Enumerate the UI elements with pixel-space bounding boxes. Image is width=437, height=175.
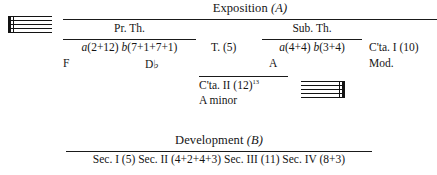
staff-line	[8, 16, 52, 17]
staff-line	[8, 24, 52, 25]
music-staff-icon	[8, 16, 52, 33]
subordinate-theme-label: Sub. Th.	[262, 22, 362, 34]
primary-theme-label: Pr. Th.	[63, 22, 196, 34]
staff-line	[8, 32, 52, 33]
closing-two-rule	[199, 76, 288, 77]
development-sections: Sec. I (5) Sec. II (4+2+4+3) Sec. III (1…	[66, 153, 372, 165]
staff-line	[8, 28, 52, 29]
closing-two-footnote: 13	[253, 78, 260, 85]
subordinate-theme-key: A	[269, 57, 277, 69]
closing-two-text: C'ta. II (12)	[199, 79, 253, 91]
closing-two-key: A minor	[199, 94, 237, 106]
staff-line	[301, 97, 345, 98]
exposition-title: Exposition (A)	[63, 1, 437, 16]
staff-line	[301, 81, 345, 82]
primary-theme-key-left: F	[63, 57, 69, 69]
development-title-letter: (B)	[247, 133, 263, 147]
primary-theme-subdivisions: a(2+12) b(7+1+7+1)	[63, 41, 196, 53]
subordinate-theme-subdivisions: a(4+4) b(3+4)	[262, 41, 362, 53]
closing-one-label: C'ta. I (10)	[369, 41, 419, 53]
exposition-title-letter: (A)	[271, 1, 287, 15]
primary-theme-key-right: D♭	[145, 57, 159, 71]
transition-label: T. (5)	[211, 41, 236, 53]
sonata-form-diagram: Exposition (A) Pr. Th. a(2+12) b(7+1+7+1…	[0, 0, 437, 175]
closing-one-key: Mod.	[369, 57, 394, 69]
development-title-text: Development	[175, 133, 243, 147]
exposition-title-text: Exposition	[213, 1, 268, 15]
development-title: Development (B)	[66, 133, 372, 148]
staff-line	[301, 93, 345, 94]
staff-line	[301, 85, 345, 86]
closing-two-label: C'ta. II (12)13	[199, 78, 259, 91]
staff-line	[8, 20, 52, 21]
staff-line	[301, 89, 345, 90]
exposition-rule	[63, 19, 437, 20]
development-rule	[66, 151, 372, 152]
primary-theme-rule	[63, 39, 196, 40]
subordinate-theme-rule	[262, 39, 362, 40]
music-staff-end-icon	[301, 81, 345, 98]
